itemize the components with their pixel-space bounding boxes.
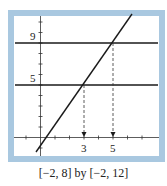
graph-plot: 9 5 3 5 — [0, 0, 167, 186]
y-label-9: 9 — [30, 30, 36, 42]
arrowhead-x3 — [82, 132, 87, 137]
window-caption: [−2, 8] by [−2, 12] — [0, 166, 167, 181]
y-label-5: 5 — [30, 72, 36, 84]
x-label-3: 3 — [81, 142, 87, 154]
x-label-5: 5 — [110, 142, 116, 154]
arrowhead-x5 — [111, 132, 116, 137]
